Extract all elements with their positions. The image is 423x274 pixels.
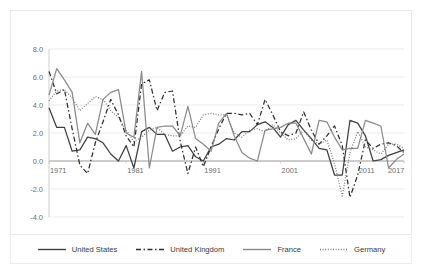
- legend-label: United Kingdom: [170, 245, 224, 254]
- legend-swatch-dotted-line: [319, 245, 349, 254]
- legend-swatch-dashed-line: [135, 245, 165, 254]
- gridlines-group: [49, 49, 404, 217]
- legend-label: United States: [72, 245, 118, 254]
- legend-item-france[interactable]: France: [242, 245, 301, 254]
- series-line-united-states: [49, 108, 404, 175]
- y-tick-label: -2.0: [30, 185, 43, 194]
- y-tick-label: 2.0: [33, 129, 43, 138]
- y-tick-label: 6.0: [33, 73, 43, 82]
- y-axis-tick-labels: 8.06.04.02.00.0-2.0-4.0: [30, 45, 43, 222]
- legend-label: France: [277, 245, 301, 254]
- legend-swatch-solid-line: [37, 245, 67, 254]
- y-tick-label: 0.0: [33, 157, 43, 166]
- chart-container: 8.06.04.02.00.0-2.0-4.0 1971198119912001…: [10, 10, 412, 235]
- series-line-united-kingdom: [49, 71, 404, 197]
- x-tick-label: 2011: [359, 166, 375, 175]
- chart-legend: United StatesUnited KingdomFranceGermany: [10, 236, 412, 264]
- legend-item-germany[interactable]: Germany: [319, 245, 385, 254]
- x-tick-label: 1971: [50, 166, 66, 175]
- legend-item-united-kingdom[interactable]: United Kingdom: [135, 245, 224, 254]
- series-line-france: [49, 69, 404, 168]
- y-tick-label: 8.0: [33, 45, 43, 54]
- line-chart-plot: 8.06.04.02.00.0-2.0-4.0 1971198119912001…: [11, 11, 411, 234]
- x-axis-tick-labels: 197119811991200120112017: [49, 161, 404, 175]
- legend-item-united-states[interactable]: United States: [37, 245, 118, 254]
- y-tick-label: -4.0: [30, 213, 43, 222]
- y-tick-label: 4.0: [33, 101, 43, 110]
- legend-label: Germany: [354, 245, 385, 254]
- x-tick-label: 1981: [127, 166, 143, 175]
- legend-swatch-solid-line: [242, 245, 272, 254]
- x-tick-label: 2001: [282, 166, 298, 175]
- legend-row: United StatesUnited KingdomFranceGermany: [11, 236, 411, 263]
- x-tick-label: 1991: [204, 166, 220, 175]
